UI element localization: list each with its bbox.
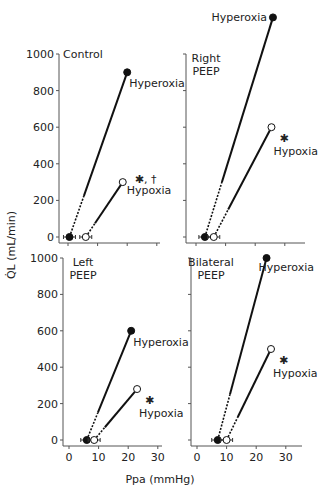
y-tick-label: 800 <box>33 85 54 98</box>
hypoxia-line <box>95 182 123 223</box>
hypoxia-point <box>223 437 230 444</box>
hypoxia-point <box>134 386 141 393</box>
significance-annotation: ✱, † <box>135 173 157 186</box>
series-label-hypoxia: Hypoxia <box>139 407 183 420</box>
y-tick-label: 200 <box>33 194 54 207</box>
hypoxia-point <box>82 234 89 241</box>
series-label-hypoxia: Hypoxia <box>273 367 317 380</box>
y-tick-label: 200 <box>37 398 58 411</box>
hyperoxia-line <box>98 331 131 413</box>
y-tick-label: 800 <box>37 288 58 301</box>
significance-annotation: ✱ <box>279 132 288 145</box>
x-tick-label: 30 <box>279 451 293 464</box>
hyperoxia-point <box>66 234 73 241</box>
panel-label: Left <box>73 256 94 269</box>
hyperoxia-line <box>222 17 273 182</box>
x-tick-label: 30 <box>151 451 165 464</box>
y-axis-label: Q̇L (mL/min) <box>5 211 18 279</box>
panel-label: Right <box>192 52 222 65</box>
panel-label: PEEP <box>69 269 97 282</box>
hypoxia-point <box>268 124 275 131</box>
y-tick-label: 600 <box>37 325 58 338</box>
hyperoxia-line <box>84 72 127 196</box>
y-tick-label: 0 <box>47 231 54 244</box>
series-label-hypoxia: Hypoxia <box>273 145 317 158</box>
significance-annotation: ✱ <box>145 394 154 407</box>
hyperoxia-line <box>230 258 267 395</box>
x-tick-label: 20 <box>121 451 135 464</box>
hyperoxia-point <box>128 327 135 334</box>
hyperoxia-dotted-segment <box>69 196 83 237</box>
series-label-hyperoxia: Hyperoxia <box>211 11 267 24</box>
hypoxia-dotted-segment <box>214 210 228 237</box>
y-tick-label: 400 <box>37 361 58 374</box>
hypoxia-line <box>105 389 137 427</box>
chart: Q̇L (mL/min) Ppa (mmHg) 0200400600800100… <box>0 0 319 497</box>
x-tick-label: 10 <box>92 451 106 464</box>
hyperoxia-point <box>124 69 131 76</box>
hypoxia-point <box>119 179 126 186</box>
panel-label: Control <box>63 48 103 61</box>
y-tick-label: 1000 <box>26 48 54 61</box>
panel-label: PEEP <box>192 65 220 78</box>
series-label-hyperoxia: Hyperoxia <box>259 261 315 274</box>
hyperoxia-dotted-segment <box>87 413 98 440</box>
hypoxia-point <box>210 234 217 241</box>
x-axis-label: Ppa (mmHg) <box>125 473 194 486</box>
hyperoxia-dotted-segment <box>205 182 222 237</box>
y-tick-label: 0 <box>51 434 58 447</box>
hyperoxia-dotted-segment <box>218 395 230 441</box>
hypoxia-point <box>91 437 98 444</box>
significance-annotation: ✱ <box>279 354 288 367</box>
x-tick-label: 20 <box>249 451 263 464</box>
x-tick-label: 0 <box>194 451 201 464</box>
y-tick-label: 400 <box>33 158 54 171</box>
panel-label: Bilateral <box>188 256 234 269</box>
y-tick-label: 600 <box>33 121 54 134</box>
hypoxia-point <box>268 346 275 353</box>
x-tick-label: 10 <box>220 451 234 464</box>
panel-label: PEEP <box>197 269 225 282</box>
hypoxia-line <box>238 349 271 417</box>
series-label-hyperoxia: Hyperoxia <box>129 77 185 90</box>
series-label-hyperoxia: Hyperoxia <box>133 336 189 349</box>
hyperoxia-point <box>269 14 276 21</box>
x-tick-label: 0 <box>66 451 73 464</box>
y-tick-label: 1000 <box>30 252 58 265</box>
